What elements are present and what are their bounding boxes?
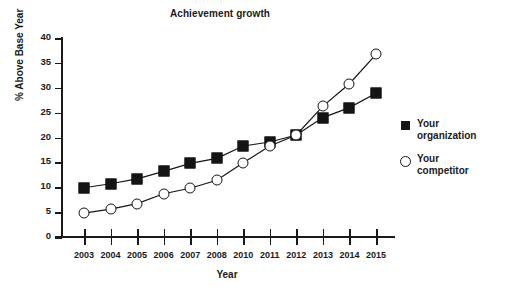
y-axis-tick: 25: [55, 113, 62, 115]
x-axis-tick-label: 2012: [286, 250, 306, 260]
x-axis-tick-label: 2013: [313, 250, 333, 260]
y-axis-tick-label: 15: [40, 155, 51, 166]
y-axis-tick-label: 10: [40, 180, 51, 191]
y-axis-tick: 10: [55, 187, 62, 189]
chart-figure: Achievement growth % Above Base Year 051…: [0, 0, 507, 294]
y-axis-tick-label: 0: [46, 230, 51, 241]
y-axis-tick: 35: [55, 63, 62, 65]
legend-label-line1: Your: [417, 118, 476, 130]
x-axis-tick-label: 2015: [366, 250, 386, 260]
y-axis-tick: 15: [55, 162, 62, 164]
data-point-filled-square-icon: [79, 182, 90, 193]
filled-square-icon: [400, 121, 411, 130]
data-point-open-circle-icon: [344, 78, 355, 89]
legend-label-line2: competitor: [417, 165, 469, 177]
x-axis-tick-label: 2004: [101, 250, 121, 260]
legend-item[interactable]: Yourorganization: [400, 118, 504, 141]
y-axis-tick: 40: [55, 38, 62, 40]
y-axis-tick-label: 25: [40, 106, 51, 117]
y-axis-label-text: % Above Base Year: [14, 85, 25, 101]
data-point-filled-square-icon: [105, 178, 116, 189]
data-point-open-circle-icon: [132, 198, 143, 209]
data-point-open-circle-icon: [264, 140, 275, 151]
y-axis-tick: 0: [55, 237, 62, 239]
data-point-filled-square-icon: [211, 153, 222, 164]
x-axis-tick-label: 2003: [74, 250, 94, 260]
y-axis-tick: 30: [55, 88, 62, 90]
data-point-open-circle-icon: [211, 175, 222, 186]
data-point-filled-square-icon: [158, 166, 169, 177]
x-axis-tick-label: 2007: [180, 250, 200, 260]
legend-item[interactable]: Yourcompetitor: [400, 153, 504, 176]
x-axis-tick-label: 2005: [127, 250, 147, 260]
data-point-filled-square-icon: [185, 158, 196, 169]
data-point-open-circle-icon: [371, 49, 382, 60]
x-axis-tick-label: 2010: [233, 250, 253, 260]
data-point-filled-square-icon: [238, 140, 249, 151]
x-axis-tick-label: 2014: [339, 250, 359, 260]
data-point-filled-square-icon: [317, 112, 328, 123]
y-axis-tick: 5: [55, 212, 62, 214]
data-point-open-circle-icon: [158, 188, 169, 199]
legend-item-label: Yourcompetitor: [417, 153, 469, 176]
legend-label-line2: organization: [417, 130, 476, 142]
x-axis-tick-label: 2008: [207, 250, 227, 260]
data-point-open-circle-icon: [79, 208, 90, 219]
series-line: [84, 93, 376, 188]
chart-title: Achievement growth: [0, 8, 440, 19]
chart-legend: YourorganizationYourcompetitor: [400, 118, 504, 188]
data-point-open-circle-icon: [238, 157, 249, 168]
plot-area: 0510152025303540 20032004200520062007200…: [62, 38, 392, 237]
data-point-open-circle-icon: [291, 130, 302, 141]
data-point-open-circle-icon: [105, 204, 116, 215]
series-line: [84, 54, 376, 213]
filled-square-icon-glyph: [401, 121, 410, 130]
open-circle-icon-glyph: [400, 156, 411, 167]
y-axis-label: % Above Base Year: [14, 85, 25, 101]
data-point-open-circle-icon: [185, 183, 196, 194]
data-point-filled-square-icon: [371, 88, 382, 99]
data-point-filled-square-icon: [344, 102, 355, 113]
y-axis-tick-label: 5: [46, 205, 51, 216]
x-axis-tick-label: 2011: [260, 250, 280, 260]
x-axis-label: Year: [62, 269, 392, 280]
y-axis-tick-label: 35: [40, 56, 51, 67]
open-circle-icon: [400, 156, 411, 167]
data-point-filled-square-icon: [132, 173, 143, 184]
y-axis-tick-label: 20: [40, 131, 51, 142]
x-axis-tick-label: 2006: [154, 250, 174, 260]
data-point-open-circle-icon: [317, 101, 328, 112]
y-axis-tick-label: 40: [40, 31, 51, 42]
legend-label-line1: Your: [417, 153, 469, 165]
y-axis-tick: 20: [55, 138, 62, 140]
y-axis-tick-label: 30: [40, 81, 51, 92]
legend-item-label: Yourorganization: [417, 118, 476, 141]
